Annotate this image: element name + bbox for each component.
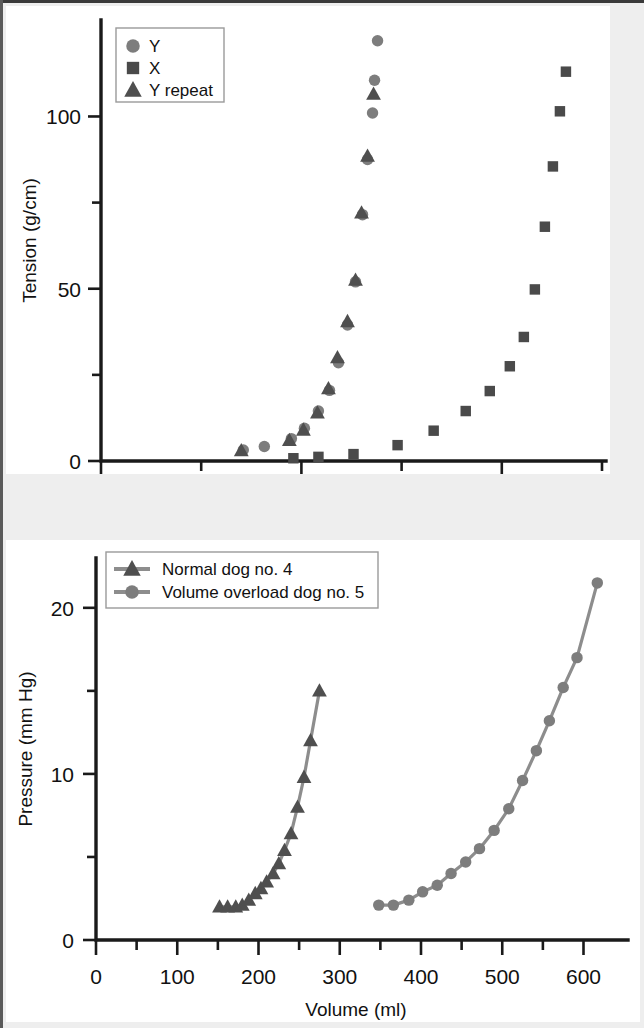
data-point [417,886,428,897]
data-point [360,148,375,161]
data-point [369,75,380,86]
chart-panel-pressure: 010200100200300400500600Volume (ml)Press… [6,540,640,1022]
axis-lines [96,558,628,940]
data-point [485,386,495,396]
data-point [445,868,456,879]
data-point [290,799,305,812]
figure-page: 0501000.91.11.3Stretch ratioTension (g/c… [0,0,644,1028]
data-point [530,284,540,294]
data-point [313,452,323,462]
data-point [517,775,528,786]
x-tick-label: 100 [160,965,195,988]
data-point [548,161,558,171]
data-point [340,314,355,327]
data-point [531,745,542,756]
data-point [544,715,555,726]
data-point [557,682,568,693]
data-point [460,856,471,867]
data-point [561,66,571,76]
y-tick-label: 0 [69,450,81,473]
legend-label: Normal dog no. 4 [162,560,292,579]
data-point [461,406,471,416]
x-tick-label: 500 [485,965,520,988]
y-axis-title: Pressure (mm Hg) [15,671,36,826]
data-point [284,826,299,839]
data-point [366,86,381,99]
legend-label: Y [149,37,160,56]
page-frame-top [0,0,644,3]
x-tick-label: 400 [403,965,438,988]
series-y [238,35,384,456]
pressure-volume-chart: 010200100200300400500600Volume (ml)Press… [6,540,640,1022]
series-y-repeat [234,86,381,456]
y-axis-title: Tension (g/cm) [19,178,40,303]
series-x [288,66,571,463]
x-tick-label: 600 [566,965,601,988]
data-point [555,106,565,116]
data-point [330,350,345,363]
data-point [277,843,292,856]
data-point [540,221,550,231]
legend-label: Y repeat [149,81,213,100]
legend-circle-icon [126,39,140,53]
chart-panel-tension: 0501000.91.11.3Stretch ratioTension (g/c… [6,6,610,474]
x-tick-label: 300 [322,965,357,988]
data-point [592,577,603,588]
data-point [503,803,514,814]
data-point [259,441,270,452]
y-tick-label: 100 [46,105,81,128]
y-tick-label: 0 [62,929,74,952]
data-point [432,879,443,890]
y-tick-label: 10 [51,763,74,786]
series-triangle [212,683,327,912]
data-point [474,843,485,854]
data-point [571,652,582,663]
x-tick-label: 200 [241,965,276,988]
data-point [348,272,363,285]
y-tick-label: 50 [58,278,81,301]
data-point [403,894,414,905]
data-point [271,856,286,869]
series-line [379,583,598,905]
data-point [297,770,312,783]
data-point [519,332,529,342]
legend-circle-icon [125,585,139,599]
data-point [505,361,515,371]
data-point [312,683,327,696]
data-point [388,899,399,910]
x-tick-label: 0 [90,965,102,988]
data-point [373,899,384,910]
page-frame-left [0,0,3,1028]
data-point [428,425,438,435]
y-tick-label: 20 [51,597,74,620]
data-point [303,733,318,746]
data-point [367,107,378,118]
tension-stretch-chart: 0501000.91.11.3Stretch ratioTension (g/c… [6,6,610,474]
data-point [392,440,402,450]
data-point [488,825,499,836]
legend-square-icon [127,62,139,74]
x-axis-title: Volume (ml) [305,999,406,1020]
data-point [372,35,383,46]
data-point [348,449,358,459]
legend-label: Volume overload dog no. 5 [162,583,364,602]
legend-label: X [149,59,160,78]
data-point [288,453,298,463]
series-circle [373,577,603,911]
